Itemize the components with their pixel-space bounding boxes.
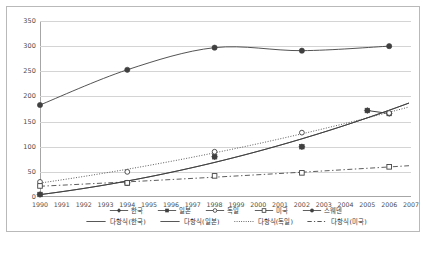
data-point <box>38 184 43 189</box>
plot-area: 050100150200250300350 199019911992199319… <box>40 21 411 197</box>
data-point <box>125 181 130 186</box>
y-axis-tick-label: 200 <box>23 92 36 100</box>
trendline-path <box>40 103 409 195</box>
data-point <box>38 192 43 197</box>
legend-key-icon <box>205 207 225 214</box>
legend-item[interactable]: 다항식(미국) <box>305 217 367 226</box>
legend-label: 다항식(독일) <box>258 218 294 226</box>
data-point <box>125 169 130 174</box>
legend-item[interactable]: 다항식(일본) <box>158 217 220 226</box>
trendline-path <box>40 107 409 183</box>
data-point <box>212 149 217 154</box>
trendline-일본 <box>40 103 409 195</box>
legend-key-icon <box>232 218 256 225</box>
legend-label: 다항식(미국) <box>331 218 367 226</box>
series-스웨덴 <box>37 44 391 108</box>
chart-frame: 050100150200250300350 199019911992199319… <box>6 6 420 232</box>
data-point <box>299 130 304 135</box>
legend-key <box>232 218 256 225</box>
chart-container: 050100150200250300350 199019911992199319… <box>0 0 428 256</box>
y-axis-tick-label: 150 <box>23 118 36 126</box>
trendline-미국 <box>40 166 409 187</box>
legend-item[interactable]: 스웨덴 <box>302 206 342 215</box>
y-axis-tick-label: 250 <box>23 67 36 75</box>
legend-key <box>158 218 182 225</box>
data-point <box>212 45 217 50</box>
legend-label: 독일 <box>227 207 239 215</box>
data-point <box>387 111 392 116</box>
legend-key <box>109 207 129 214</box>
trendline-path <box>40 103 409 195</box>
legend-key <box>205 207 225 214</box>
legend-label: 일본 <box>179 207 191 215</box>
y-axis-tick-label: 100 <box>23 143 36 151</box>
legend-label: 미국 <box>276 207 288 215</box>
legend-label: 스웨덴 <box>324 207 342 215</box>
data-point <box>212 174 217 179</box>
legend-item[interactable]: 미국 <box>254 206 288 215</box>
legend-key-icon <box>157 207 177 214</box>
legend-key-icon <box>109 207 129 214</box>
legend-key-icon <box>302 207 322 214</box>
legend-key <box>84 218 108 225</box>
trendline-독일 <box>40 107 409 183</box>
legend-row-series: 한국일본독일미국스웨덴 <box>40 206 411 215</box>
legend-item[interactable]: 다항식(독일) <box>232 217 294 226</box>
legend-row-trendlines: 다항식(한국)다항식(일본)다항식(독일)다항식(미국) <box>40 217 411 226</box>
data-point <box>212 154 217 159</box>
trendline-path <box>40 166 409 187</box>
legend-label: 한국 <box>131 207 143 215</box>
legend-key-icon <box>84 218 108 225</box>
data-point <box>37 102 42 107</box>
trendline-한국 <box>40 103 409 195</box>
data-point <box>387 44 392 49</box>
data-point <box>387 165 392 170</box>
y-axis-tick-label: 350 <box>23 17 36 25</box>
legend-key <box>302 207 322 214</box>
data-point <box>365 108 370 113</box>
legend-item[interactable]: 일본 <box>157 206 191 215</box>
legend-label: 다항식(일본) <box>184 218 220 226</box>
y-axis-tick-label: 300 <box>23 42 36 50</box>
legend-key <box>305 218 329 225</box>
legend-item[interactable]: 한국 <box>109 206 143 215</box>
legend-key-icon <box>305 218 329 225</box>
legend-key-icon <box>254 207 274 214</box>
y-axis-tick-label: 50 <box>28 168 36 176</box>
legend-key <box>254 207 274 214</box>
data-point <box>300 144 305 149</box>
data-point <box>300 171 305 176</box>
legend-item[interactable]: 다항식(한국) <box>84 217 146 226</box>
data-point <box>125 67 130 72</box>
data-point <box>299 48 304 53</box>
legend-item[interactable]: 독일 <box>205 206 239 215</box>
legend-key <box>157 207 177 214</box>
legend-key-icon <box>158 218 182 225</box>
series-line <box>40 46 389 105</box>
series-layer <box>40 21 411 197</box>
plot-inner: 050100150200250300350 199019911992199319… <box>40 21 411 197</box>
y-axis-tick-label: 0 <box>32 193 36 201</box>
series-미국 <box>38 165 392 189</box>
legend-label: 다항식(한국) <box>110 218 146 226</box>
